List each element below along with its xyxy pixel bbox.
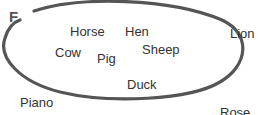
member-cow: Cow: [55, 46, 81, 59]
set-label: F: [9, 8, 18, 25]
outside-lion: Lion: [230, 27, 255, 40]
member-horse: Horse: [70, 25, 105, 38]
outside-piano: Piano: [20, 96, 53, 109]
member-duck: Duck: [127, 78, 157, 91]
member-hen: Hen: [125, 25, 149, 38]
member-pig: Pig: [97, 52, 116, 65]
member-sheep: Sheep: [142, 43, 180, 56]
outside-rose: Rose: [220, 106, 250, 115]
